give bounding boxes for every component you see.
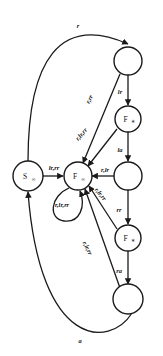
edge-label-top-to-finf: r,rr [84, 93, 95, 104]
edge-label-fdn-to-bot: ra [116, 267, 122, 274]
node-top[interactable] [114, 47, 142, 75]
edge-label-bottom-arc: a [78, 337, 82, 344]
edge-label-top-to-fup: lr [118, 88, 123, 95]
node-f-infinity[interactable]: F ∞ [64, 162, 92, 190]
edge-label-mid-to-fdn: rr [117, 206, 122, 213]
node-f-star-lower-label: F [123, 234, 127, 243]
edge-label-mid-to-finf: r,lr [101, 166, 110, 173]
node-s-infinity-label: S [23, 172, 27, 181]
edge-top-arc [28, 35, 128, 161]
node-f-star-lower[interactable]: F ∗ [115, 225, 141, 251]
edge-fup-to-finf [88, 129, 117, 166]
edge-label-fup-to-mid: la [118, 146, 124, 153]
edge-label-f-selfloop: r,lr,rr [55, 201, 70, 208]
node-f-star-upper[interactable]: F ∗ [115, 106, 141, 132]
edge-label-fup-to-finf: r,lr,rr [74, 126, 89, 142]
node-s-infinity[interactable]: S ∞ [13, 161, 43, 191]
node-s-infinity-subscript: ∞ [32, 176, 36, 182]
node-f-infinity-subscript: ∞ [81, 176, 85, 182]
state-diagram-figure: S ∞ F ∞ F ∗ F ∗ r a lr,r [0, 0, 163, 356]
node-f-star-upper-subscript: ∗ [131, 118, 135, 124]
node-f-star-lower-subscript: ∗ [131, 237, 135, 243]
edge-label-fdn-to-finf: r,lr,rr [94, 186, 109, 202]
edge-label-top-arc: r [77, 22, 80, 29]
node-middle[interactable] [114, 162, 142, 190]
node-f-star-upper-label: F [123, 115, 127, 124]
node-bottom[interactable] [113, 284, 143, 314]
node-f-infinity-label: F [73, 172, 77, 181]
edge-label-bot-to-finf: r,lr,rr [82, 240, 95, 256]
edge-label-s-to-f: lr,rr [49, 164, 60, 171]
state-diagram-canvas: S ∞ F ∞ F ∗ F ∗ r a lr,r [0, 0, 163, 356]
